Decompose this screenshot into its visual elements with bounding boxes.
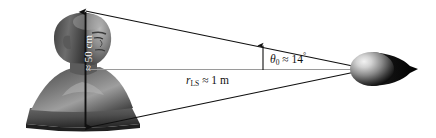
distance-label: rLS ≈ 1 m [186, 74, 229, 86]
distance-subscript: LS [190, 79, 199, 88]
speaker-bulb [350, 52, 394, 86]
angle-symbol: θ [270, 53, 276, 65]
diagram-svg [0, 0, 436, 138]
cone-upper-edge [86, 11, 361, 68]
angle-value: ≈ 14 [282, 53, 303, 65]
angle-subscript: 0 [276, 58, 280, 67]
distance-value: ≈ 1 m [202, 74, 229, 86]
loudspeaker [350, 52, 418, 86]
figure-canvas: rLS ≈ 1 m θ0 ≈ 14° ≈ 50 cm [0, 0, 436, 138]
head-height-label: ≈ 50 cm [82, 23, 94, 83]
angle-label: θ0 ≈ 14° [270, 51, 306, 65]
angle-unit: ° [303, 51, 306, 60]
